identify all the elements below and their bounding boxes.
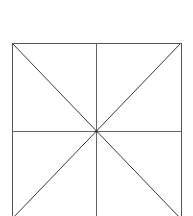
figure-canvas xyxy=(0,0,193,216)
line-segment-group xyxy=(12,43,182,216)
center-vertex-point xyxy=(95,130,98,133)
square-diagonals-figure xyxy=(0,0,193,216)
